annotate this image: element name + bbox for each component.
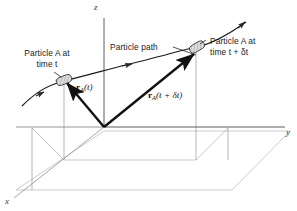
z-axis-label: z	[94, 2, 98, 12]
ground-projection-edge-left	[32, 128, 64, 160]
projection-droplines	[32, 52, 228, 190]
vector-argument-r-a-t-plus-dt: (t + δt)	[156, 90, 182, 100]
particle-position-vector-diagram: z y x Particle path Particle A at time t…	[0, 0, 297, 211]
x-axis-label: x	[5, 196, 9, 206]
ground-plane-outline	[16, 131, 290, 190]
particle-time-t-plus-dt-label: Particle A at time t + δt	[210, 36, 256, 57]
y-axis-label: y	[286, 127, 290, 137]
particle-marker-time-t	[55, 73, 73, 86]
vector-argument-r-a-t: (t)	[84, 82, 93, 92]
leader-left	[54, 72, 61, 77]
construction-lines	[16, 128, 290, 190]
diagram-canvas	[0, 0, 297, 211]
particle-time-t-label-line1: Particle A at	[6, 48, 88, 59]
path-arrow-right	[238, 22, 245, 28]
particle-time-t-label: Particle A at time t	[6, 48, 88, 69]
particle-path-label: Particle path	[110, 42, 158, 53]
particle-time-t-plus-dt-label-line1: Particle A at	[210, 36, 256, 47]
vector-label-r-a-t: rA(t)	[76, 82, 93, 92]
ground-projection-lines	[64, 128, 228, 160]
x-axis	[14, 127, 104, 198]
vector-subscript-r-a-t-plus-dt: A	[152, 94, 156, 101]
vector-label-r-a-t-plus-dt: rA(t + δt)	[148, 90, 182, 100]
vector-subscript-r-a-t: A	[80, 86, 84, 93]
particle-time-t-label-line2: time t	[6, 59, 88, 70]
particle-time-t-plus-dt-label-line2: time t + δt	[210, 47, 256, 58]
